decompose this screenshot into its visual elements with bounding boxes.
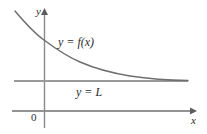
function-equation-label: y = f(x) [58,36,94,48]
x-axis-label: x [191,115,196,126]
function-curve [15,11,188,81]
y-axis-arrowhead [41,8,48,15]
limit-asymptote-figure: y x 0 y = f(x) y = L [0,0,207,134]
asymptote-equation-label: y = L [76,86,102,98]
origin-label: 0 [31,112,37,123]
y-axis-label: y [36,6,41,17]
